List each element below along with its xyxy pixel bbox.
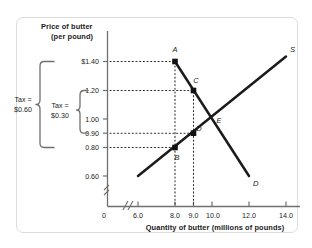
y-tick-label-090: 0.90 — [85, 130, 99, 138]
x-axis-title: Quantity of butter (millions of pounds) — [146, 223, 285, 232]
y-tick-label-100: 1.00 — [85, 116, 99, 124]
y-axis-title-line2: (per pound) — [51, 32, 94, 41]
point-label-a: A — [172, 45, 178, 54]
demand-curve-label: D — [253, 179, 259, 188]
inner-tax-label-line2: $0.30 — [51, 112, 69, 120]
point-marker-b — [172, 145, 178, 151]
x-tick-label-0: 0 — [102, 212, 106, 220]
inner-tax-label-line1: Tax = — [51, 102, 68, 110]
outer-tax-label-line2: $0.60 — [14, 106, 32, 114]
chart-svg: Price of butter (per pound) $1.40 1.20 1… — [0, 0, 312, 248]
x-tick-label-6: 6.0 — [133, 212, 143, 220]
inner-tax-bracket — [77, 91, 89, 134]
point-label-b: B — [175, 153, 180, 162]
point-label-c: C — [193, 76, 199, 85]
y-tick-label-080: 0.80 — [85, 144, 99, 152]
y-tick-label-120: 1.20 — [85, 87, 99, 95]
x-tick-label-14: 14.0 — [279, 212, 293, 220]
y-tick-marks — [103, 62, 108, 177]
supply-curve — [138, 57, 286, 177]
outer-tax-label-line1: Tax = — [14, 96, 31, 104]
supply-curve-label: S — [290, 45, 295, 54]
y-axis-break-icon — [104, 185, 109, 195]
x-tick-label-8: 8.0 — [170, 212, 180, 220]
x-tick-label-12: 12.0 — [242, 212, 256, 220]
point-label-d: D — [196, 124, 202, 133]
x-tick-label-10: 10.0 — [206, 212, 220, 220]
x-axis-break-icon — [123, 201, 133, 210]
point-label-e: E — [217, 116, 222, 125]
y-axis-title-line1: Price of butter — [41, 22, 93, 31]
y-tick-label-060: 0.60 — [85, 173, 99, 181]
y-tick-label-140: $1.40 — [81, 58, 99, 66]
point-marker-c — [191, 88, 197, 94]
x-tick-marks — [138, 202, 286, 207]
point-marker-a — [172, 59, 178, 65]
x-tick-label-9: 9.0 — [189, 212, 199, 220]
demand-curve — [175, 62, 249, 177]
supply-demand-chart: Price of butter (per pound) $1.40 1.20 1… — [0, 0, 312, 248]
